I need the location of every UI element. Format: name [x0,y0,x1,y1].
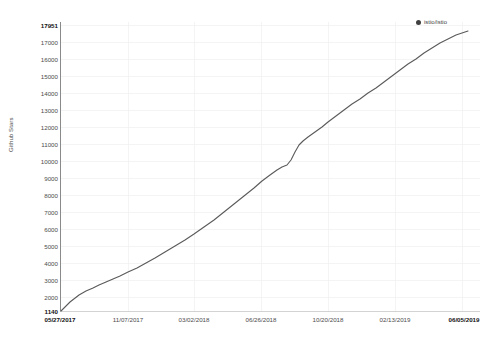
github-stars-line-chart: Github Stars 17951 17000 16000 15000 140… [0,0,501,354]
plot-area [0,0,501,354]
series-line-istio [61,31,468,311]
horizontal-gridlines [60,26,480,298]
vertical-gridlines [129,22,463,312]
